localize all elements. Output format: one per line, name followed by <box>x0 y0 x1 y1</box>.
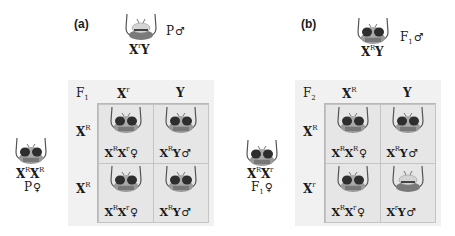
punnett-cell: XRY♂ <box>153 163 209 223</box>
column-header-1: Xr <box>117 86 130 101</box>
offspring-genotype: XRXR♀ <box>332 145 367 160</box>
row-header-1: XR <box>303 124 318 139</box>
column-header-2: Y <box>403 86 412 100</box>
row-header-1: XR <box>76 124 91 139</box>
female-parent-genotype: XRXR <box>16 166 44 181</box>
column-header-2: Y <box>176 86 185 100</box>
generation-label: F1 <box>76 86 89 102</box>
female-parent-tag: F1♀ <box>251 180 273 196</box>
offspring-genotype: XrY♂ <box>387 204 416 219</box>
column-header-1: XR <box>342 86 357 101</box>
fly-red-eye-icon <box>390 107 426 133</box>
male-parent-tag: F1♂ <box>400 30 424 46</box>
fly-red-eye-icon <box>335 166 371 192</box>
punnett-cell: XRXr♀ <box>325 163 381 223</box>
offspring-genotype: XRY♂ <box>160 204 191 219</box>
punnett-cell: XRXr♀ <box>98 104 154 164</box>
generation-label: F2 <box>303 86 316 102</box>
offspring-genotype: XRXr♀ <box>105 145 138 160</box>
punnett-grid: XRXr♀ XRY♂ XRXr♀ XRY♂ <box>97 103 209 223</box>
fly-white-eye-icon <box>390 166 426 192</box>
punnett-cell: XRY♂ <box>380 104 436 164</box>
fly-red-eye-icon <box>335 107 371 133</box>
male-parent-genotype: XRY <box>361 44 383 59</box>
panel-label: (b) <box>301 17 316 31</box>
offspring-genotype: XRY♂ <box>160 145 191 160</box>
punnett-cell: XrY♂ <box>380 163 436 223</box>
punnett-grid: XRXR♀ XRY♂ XRXr♀ XrY♂ <box>324 103 436 223</box>
female-parent-fly-red-eye-icon <box>13 138 49 164</box>
female-parent-fly-red-eye-icon <box>244 140 280 166</box>
fly-red-eye-icon <box>108 166 144 192</box>
male-parent-genotype: XrY <box>129 42 149 57</box>
female-parent-tag: P♀ <box>24 180 41 194</box>
offspring-genotype: XRY♂ <box>387 145 418 160</box>
punnett-cell: XRY♂ <box>153 104 209 164</box>
fly-red-eye-icon <box>163 166 199 192</box>
row-header-2: Xr <box>303 181 316 196</box>
male-parent-fly-white-eye-icon <box>123 14 159 40</box>
panel-label: (a) <box>74 17 89 31</box>
fly-red-eye-icon <box>163 107 199 133</box>
female-parent-genotype: XRXr <box>247 166 273 181</box>
punnett-cell: XRXr♀ <box>98 163 154 223</box>
male-parent-fly-red-eye-icon <box>355 18 391 44</box>
offspring-genotype: XRXr♀ <box>105 204 138 219</box>
panel-b: (b) F1♂ XRY XRXr F1♀ F2 XR Y XR Xr XRXR♀… <box>227 0 454 236</box>
row-header-2: XR <box>76 181 91 196</box>
punnett-cell: XRXR♀ <box>325 104 381 164</box>
panel-a: (a) P♂ XrY XRXR P♀ F1 Xr Y XR XR XRXr♀ X… <box>0 0 227 236</box>
fly-red-eye-icon <box>108 107 144 133</box>
male-parent-tag: P♂ <box>166 24 185 38</box>
offspring-genotype: XRXr♀ <box>332 204 365 219</box>
